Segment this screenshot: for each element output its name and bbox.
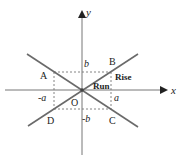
x-axis-label: x [170, 84, 176, 96]
rise-label: Rise [115, 72, 132, 82]
point-d-label: D [47, 115, 54, 126]
run-label: Run [93, 81, 110, 91]
tick-label-a: a [114, 92, 119, 103]
point-a-label: A [40, 70, 48, 81]
point-c-label: C [109, 115, 116, 126]
y-axis-label: y [85, 6, 91, 18]
tick-label-neg-b: -b [82, 113, 90, 124]
point-b-label: B [109, 56, 116, 67]
tick-label-neg-a: -a [38, 92, 46, 103]
rise-run-diagram: y x A B C D O b -b -a a Rise Run [0, 0, 184, 161]
tick-label-b: b [84, 58, 89, 69]
origin-label: O [71, 97, 78, 108]
origin-point [80, 88, 84, 92]
